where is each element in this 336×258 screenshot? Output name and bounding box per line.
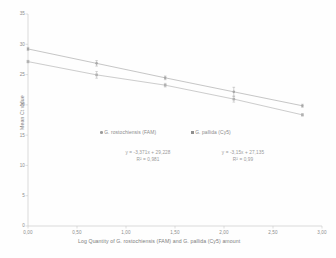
data-point <box>164 77 167 80</box>
y-axis-title: Mean Ct value <box>19 95 25 130</box>
y-tick-label: 0 <box>8 223 25 228</box>
y-tick-label: 10 <box>8 163 25 168</box>
legend-entry-pallida: G. pallida (Cy5) <box>191 130 231 135</box>
legend-marker-square-icon <box>191 131 194 134</box>
data-point <box>233 91 236 94</box>
x-tick-label: 0,00 <box>16 230 40 235</box>
axis-lines <box>28 14 322 226</box>
x-tick-label: 1,00 <box>114 230 138 235</box>
r-squared-left: R² = 0,981 <box>113 157 183 162</box>
series-trend-lines <box>28 49 302 115</box>
x-tick-label: 2,50 <box>261 230 285 235</box>
data-point <box>301 114 304 117</box>
equation-right: y = -3,15x + 27,135 <box>208 150 278 155</box>
y-tick-label: 25 <box>8 72 25 77</box>
y-tick-label: 15 <box>8 133 25 138</box>
y-tick-label: 20 <box>8 102 25 107</box>
legend-entry-rostochiensis: G. rostochiensis (FAM) <box>100 130 156 135</box>
data-point <box>164 84 167 87</box>
chart-figure: Mean Ct value Log Quantity of G. rostoch… <box>0 0 336 258</box>
data-point <box>95 74 98 77</box>
data-point <box>95 62 98 65</box>
x-axis-title: Log Quantity of G. rostochiensis (FAM) a… <box>78 238 240 244</box>
data-point <box>301 104 304 107</box>
legend-label-rostochiensis: G. rostochiensis (FAM) <box>104 130 156 135</box>
legend-marker-circle-icon <box>100 131 103 134</box>
x-tick-label: 2,00 <box>212 230 236 235</box>
trend-line <box>28 62 302 115</box>
legend-label-pallida: G. pallida (Cy5) <box>195 130 231 135</box>
x-tick-label: 3,00 <box>310 230 334 235</box>
data-point <box>27 60 30 63</box>
x-axis-ticks <box>28 226 322 229</box>
equation-left: y = -3,371x + 29,228 <box>113 150 183 155</box>
y-axis-ticks <box>26 14 29 226</box>
r-squared-right: R² = 0,99 <box>208 157 278 162</box>
y-tick-label: 30 <box>8 42 25 47</box>
x-tick-label: 0,50 <box>65 230 89 235</box>
data-point <box>233 98 236 101</box>
data-point <box>27 48 30 51</box>
y-tick-label: 5 <box>8 193 25 198</box>
chart-plot-area <box>0 0 336 258</box>
y-tick-label: 35 <box>8 11 25 16</box>
x-tick-label: 1,50 <box>163 230 187 235</box>
